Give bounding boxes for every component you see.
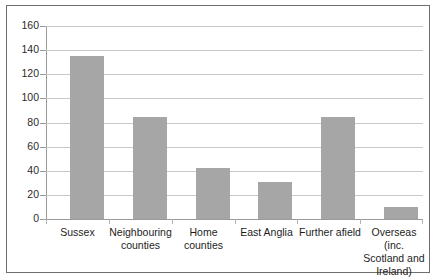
x-axis-label-sussex: Sussex: [46, 226, 109, 239]
bar-further-afield[interactable]: [321, 117, 355, 220]
x-axis-label-line: Neighbouring: [109, 226, 171, 238]
x-axis-tick: [109, 219, 110, 224]
bar-neighbouring-counties[interactable]: [133, 117, 167, 220]
x-axis-label-line: counties: [184, 239, 223, 251]
x-axis-label-east-anglia: East Anglia: [235, 226, 298, 239]
bar-east-anglia[interactable]: [258, 182, 292, 219]
x-axis-labels: Sussex Neighbouring counties Home counti…: [46, 226, 423, 272]
x-axis-tick: [360, 219, 361, 224]
x-axis-tick: [297, 219, 298, 224]
y-axis-label: 60: [7, 141, 39, 152]
x-axis-label-neighbouring-counties: Neighbouring counties: [109, 226, 172, 252]
y-axis-label: 0: [7, 213, 39, 224]
x-axis-tick: [235, 219, 236, 224]
x-axis-label-line: Scotland and: [363, 252, 424, 264]
x-axis-tick: [46, 219, 47, 224]
x-axis-label-further-afield: Further afield: [297, 226, 363, 239]
bar-home-counties[interactable]: [196, 168, 230, 219]
x-axis-tick: [172, 219, 173, 224]
x-axis-label-home-counties: Home counties: [172, 226, 235, 252]
x-axis-label-line: Overseas (inc.: [372, 226, 417, 251]
plot-area: [46, 26, 423, 219]
bar-overseas[interactable]: [384, 207, 418, 219]
y-axis-label: 120: [7, 68, 39, 79]
x-axis-label-line: Sussex: [60, 226, 94, 238]
gridline-160: [46, 26, 423, 27]
gridline-140: [46, 50, 423, 51]
y-axis-label: 40: [7, 165, 39, 176]
x-axis-label-line: Home: [189, 226, 217, 238]
y-axis-label: 20: [7, 189, 39, 200]
y-axis-label: 80: [7, 117, 39, 128]
x-axis-label-line: Ireland): [376, 265, 412, 277]
y-axis-label: 160: [7, 20, 39, 31]
x-axis-label-line: counties: [121, 239, 160, 251]
y-axis-labels: 160 140 120 100 80 60 40 20 0: [7, 6, 39, 274]
x-axis-label-line: East Anglia: [240, 226, 293, 238]
x-axis-tick: [422, 219, 423, 224]
bar-sussex[interactable]: [70, 56, 104, 219]
y-axis-label: 100: [7, 92, 39, 103]
x-axis-label-line: Further afield: [299, 226, 361, 238]
chart-frame: 160 140 120 100 80 60 40 20 0: [6, 5, 430, 273]
y-axis-label: 140: [7, 44, 39, 55]
x-axis-label-overseas: Overseas (inc. Scotland and Ireland): [363, 226, 425, 278]
